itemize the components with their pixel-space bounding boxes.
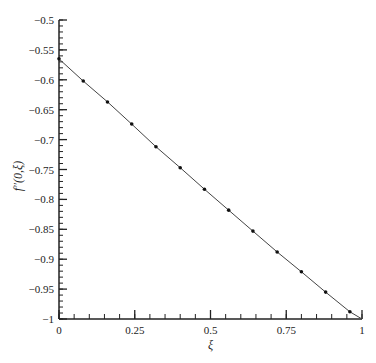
data-point: [203, 187, 207, 191]
x-tick-label: 1: [359, 324, 365, 336]
y-tick-label: −1: [42, 313, 54, 325]
data-point: [154, 145, 158, 149]
data-point: [130, 122, 134, 126]
y-tick-label: −0.65: [29, 104, 55, 116]
x-tick-label: 0.75: [277, 324, 297, 336]
data-point: [57, 57, 61, 61]
y-tick-label: −0.75: [29, 164, 55, 176]
data-point: [251, 229, 255, 233]
x-tick-labels: 00.250.50.751: [56, 324, 365, 336]
x-axis-label: ξ: [208, 338, 214, 352]
y-tick-label: −0.5: [34, 14, 54, 26]
y-axis-label: f″(0,ξ): [11, 161, 25, 191]
data-point: [81, 79, 85, 83]
line-chart: −0.5−0.55−0.6−0.65−0.7−0.75−0.8−0.85−0.9…: [0, 0, 376, 363]
data-line: [59, 59, 362, 319]
y-tick-label: −0.9: [34, 253, 54, 265]
y-tick-label: −0.55: [29, 44, 55, 56]
data-point: [324, 290, 328, 294]
data-point: [178, 166, 182, 170]
x-tick-label: 0.25: [125, 324, 145, 336]
data-point: [106, 100, 110, 104]
data-point: [300, 270, 304, 274]
y-tick-label: −0.6: [34, 74, 54, 86]
y-tick-labels: −0.5−0.55−0.6−0.65−0.7−0.75−0.8−0.85−0.9…: [29, 14, 55, 325]
x-tick-label: 0: [56, 324, 62, 336]
major-ticks: [59, 20, 362, 319]
y-tick-label: −0.7: [34, 134, 54, 146]
x-tick-label: 0.5: [204, 324, 218, 336]
data-point: [348, 310, 352, 314]
y-tick-label: −0.85: [29, 223, 55, 235]
data-point: [275, 250, 279, 254]
data-point: [227, 208, 231, 212]
y-tick-label: −0.8: [34, 193, 54, 205]
data-markers: [57, 57, 351, 314]
y-tick-label: −0.95: [29, 283, 55, 295]
